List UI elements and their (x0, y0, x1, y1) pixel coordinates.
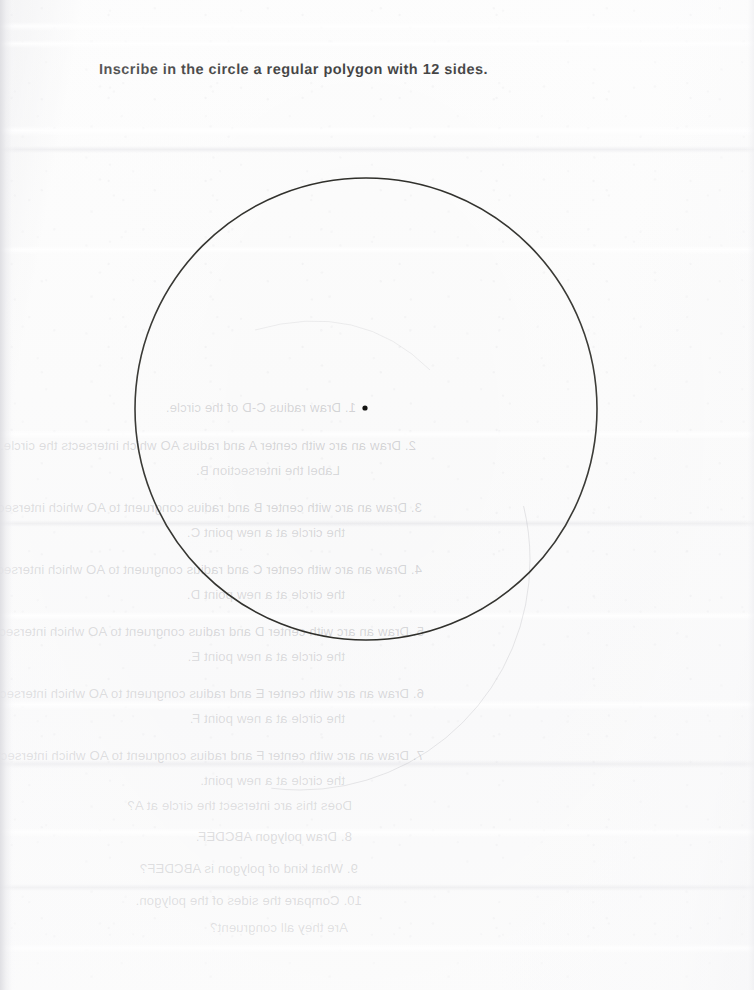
left-scan-shadow (0, 0, 16, 990)
circle-center-dot (362, 405, 367, 410)
circle-drawing-area (0, 0, 754, 990)
right-scan-shadow (744, 0, 754, 990)
worksheet-page: 1. Draw radius C-D of the circle.2. Draw… (0, 0, 754, 990)
